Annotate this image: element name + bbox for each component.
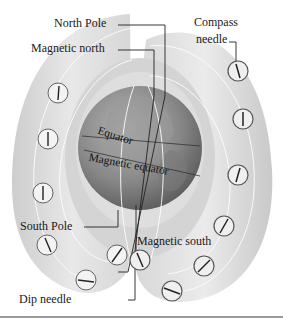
compass-label-line2: needle (196, 33, 227, 46)
magnetic-north-label: Magnetic north (31, 42, 105, 55)
dip-needle-icon (37, 235, 57, 255)
north-pole-label: North Pole (54, 17, 106, 30)
south-pole-label: South Pole (20, 220, 72, 233)
magnetic-field-diagram: North Pole Magnetic north Compass needle… (0, 0, 283, 322)
magnetic-south-label: Magnetic south (137, 235, 211, 248)
compass-label-line1: Compass (194, 16, 238, 29)
dip-needle-label: Dip needle (19, 293, 71, 306)
bottom-divider (0, 316, 283, 318)
